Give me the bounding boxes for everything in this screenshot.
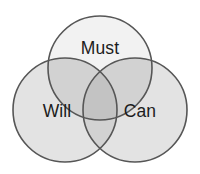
venn-label-can: Can [124, 101, 156, 121]
venn-diagram-canvas: Must Will Can [0, 0, 200, 174]
venn-label-will: Will [43, 101, 72, 121]
venn-label-must: Must [81, 38, 119, 58]
venn-diagram: Must Will Can [0, 0, 200, 174]
